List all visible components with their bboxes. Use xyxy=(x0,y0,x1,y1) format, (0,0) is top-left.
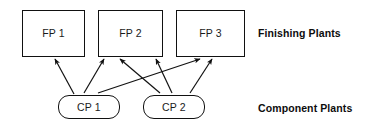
edge-cp1-fp2a xyxy=(84,59,104,93)
node-fp2[interactable]: FP 2 xyxy=(98,10,163,57)
node-cp2-label: CP 2 xyxy=(162,102,186,113)
node-cp1[interactable]: CP 1 xyxy=(58,95,120,119)
node-fp1-label: FP 1 xyxy=(42,28,65,39)
node-fp3[interactable]: FP 3 xyxy=(176,10,245,57)
node-cp2[interactable]: CP 2 xyxy=(143,95,205,119)
node-cp1-label: CP 1 xyxy=(77,102,101,113)
diagram-canvas: FP 1 FP 2 FP 3 CP 1 CP 2 Finishing Plant… xyxy=(0,0,367,130)
tier-label-component-plants: Component Plants xyxy=(258,103,352,114)
edges-group xyxy=(55,59,212,94)
edge-cp2-fp3 xyxy=(190,59,212,93)
edge-cp2-fp2b xyxy=(120,59,160,93)
node-fp2-label: FP 2 xyxy=(119,28,142,39)
edge-cp1-fp3 xyxy=(98,59,200,93)
node-fp3-label: FP 3 xyxy=(199,28,222,39)
edge-cp2-fp2c xyxy=(156,59,172,93)
node-fp1[interactable]: FP 1 xyxy=(22,10,85,57)
edge-cp1-fp1 xyxy=(55,59,74,94)
tier-label-finishing-plants: Finishing Plants xyxy=(258,28,341,39)
